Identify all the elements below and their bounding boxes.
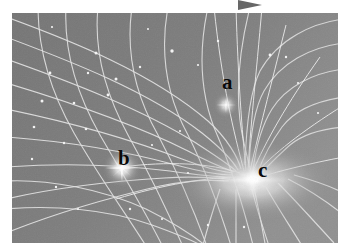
label-a: a xyxy=(222,72,233,93)
lensing-canvas xyxy=(12,13,338,243)
figure-page: a b c xyxy=(0,0,344,250)
triangle-right-icon xyxy=(238,0,262,10)
lensing-figure-plate xyxy=(12,13,338,243)
film-grain-overlay xyxy=(12,13,338,243)
label-b: b xyxy=(118,148,130,169)
label-c: c xyxy=(258,160,267,181)
